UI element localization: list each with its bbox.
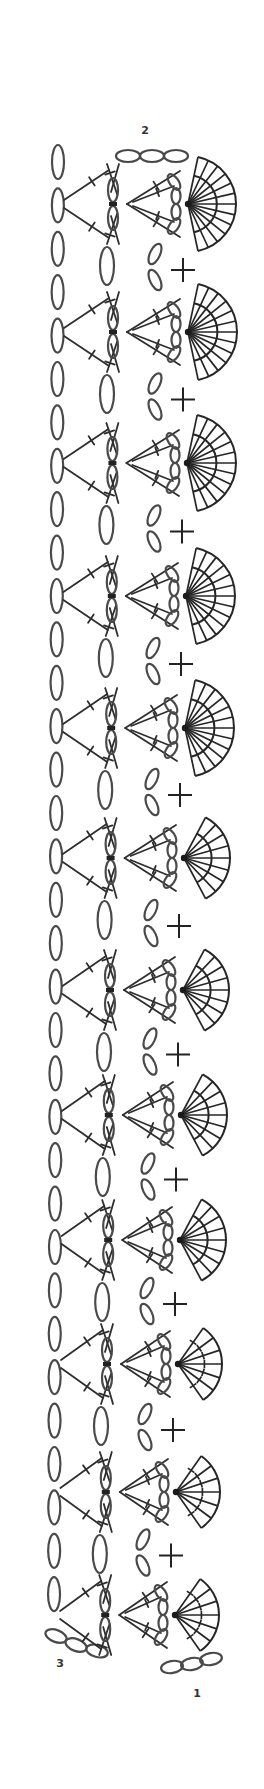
fan-shell <box>185 284 237 380</box>
chain-stitch-icon <box>94 1407 108 1445</box>
crossbar-icon <box>199 1620 202 1628</box>
chain-stitch-icon <box>50 883 62 917</box>
chain-stitch-icon <box>97 1033 111 1071</box>
chain-stitch-icon <box>146 397 164 421</box>
single-crochet-icon <box>171 258 195 282</box>
chain-stitch-icon <box>48 1490 60 1524</box>
chain-stitches <box>44 145 223 1675</box>
crossbar-icon <box>187 1591 194 1596</box>
single-crochet-icon <box>163 1292 187 1316</box>
fan-shell <box>185 157 236 251</box>
single-crochet-icon <box>168 783 192 807</box>
join-icon <box>102 1490 110 1494</box>
row-labels: 231 <box>56 124 201 1700</box>
chain-stitch-icon <box>49 1187 61 1221</box>
fan-hub <box>184 460 190 466</box>
chain-stitch-icon <box>49 1230 61 1264</box>
crossbar-icon <box>88 701 94 709</box>
chain-stitch-icon <box>146 371 164 395</box>
motif-5 <box>63 680 234 817</box>
single-crochet-icon <box>161 1418 185 1442</box>
fan-shell <box>181 817 230 898</box>
tall-stitch-icon <box>176 1466 211 1492</box>
motif-7 <box>63 949 230 1076</box>
fan-shell <box>184 415 236 511</box>
chain-stitch-icon <box>144 662 162 686</box>
crossbar-icon <box>202 1369 205 1377</box>
chain-stitch-icon <box>50 796 62 830</box>
chain-stitch-icon <box>52 275 64 309</box>
join-icon <box>109 330 117 334</box>
motif-9 <box>62 1199 226 1326</box>
chain-stitch-icon <box>96 1158 110 1196</box>
crossbar-icon <box>89 305 95 313</box>
chain-stitch-icon <box>140 150 164 162</box>
motif-10 <box>61 1324 222 1452</box>
join-icon <box>109 202 117 206</box>
crossbar-icon <box>85 1213 91 1221</box>
chain-stitch-icon <box>50 970 62 1004</box>
fan-shell <box>177 1199 226 1280</box>
tall-stitch-icon <box>178 1364 203 1400</box>
chain-stitch-icon <box>52 232 64 266</box>
tall-stitch-icon <box>178 1364 213 1390</box>
chain-stitch-icon <box>100 247 114 285</box>
crossbar-icon <box>190 1383 197 1388</box>
join-icon <box>103 1362 111 1366</box>
chain-stitch-icon <box>51 405 63 439</box>
chain-stitch-icon <box>136 1402 154 1426</box>
single-crochet-icon <box>166 1043 190 1067</box>
fan-shell <box>182 680 234 776</box>
fan-hub <box>181 855 187 861</box>
chain-stitch-icon <box>116 150 140 162</box>
chain-stitch-icon <box>99 639 113 677</box>
chain-stitch-icon <box>93 1535 107 1573</box>
row-label-3: 3 <box>56 1657 64 1670</box>
crochet-chart-svg: 231 <box>0 0 264 1789</box>
chain-stitch-icon <box>139 1151 157 1175</box>
chain-stitch-icon <box>49 1360 61 1394</box>
tall-stitch-icon <box>176 1456 201 1492</box>
tall-stitch-icon <box>175 1589 210 1615</box>
fan-hub <box>172 1612 178 1618</box>
crossbar-icon <box>89 350 95 358</box>
fan-shell <box>172 1579 219 1651</box>
tall-stitch-icon <box>175 1601 217 1615</box>
chain-stitch-icon <box>164 150 188 162</box>
tall-stitch-icon <box>178 1364 220 1378</box>
fan-hub <box>178 1112 184 1118</box>
crossbar-icon <box>199 1603 202 1611</box>
fan-shell <box>183 548 235 644</box>
chain-stitch-icon <box>98 771 112 809</box>
chain-stitch-icon <box>98 901 112 939</box>
join-icon <box>107 856 115 860</box>
single-crochet-icon <box>164 1168 188 1192</box>
motif-2 <box>64 284 237 422</box>
chain-stitch-icon <box>51 492 63 526</box>
single-crochet-icon <box>171 388 195 412</box>
chain-stitch-icon <box>49 1273 61 1307</box>
chain-stitch-icon <box>51 666 63 700</box>
crossbar-icon <box>202 1352 205 1360</box>
chain-stitch-icon <box>48 1577 60 1611</box>
crossbar-icon <box>84 1337 90 1345</box>
tall-stitch-icon <box>175 1615 217 1629</box>
crossbar-icon <box>83 1465 89 1473</box>
chain-stitch-icon <box>100 375 114 413</box>
chain-stitch-icon <box>95 1283 109 1321</box>
chain-stitch-icon <box>49 1100 61 1134</box>
join-icon <box>108 594 116 598</box>
tall-stitch-icon <box>176 1492 218 1506</box>
crossbar-icon <box>89 481 95 489</box>
crossbar-icon <box>188 1511 195 1516</box>
fan-hub <box>173 1489 179 1495</box>
motif-1 <box>64 157 236 292</box>
chain-stitch-icon <box>199 1651 223 1667</box>
chain-stitch-icon <box>49 1404 61 1438</box>
chain-stitch-icon <box>51 579 63 613</box>
chain-stitch-icon <box>52 188 64 222</box>
chain-stitch-icon <box>50 926 62 960</box>
fan-hub <box>177 1237 183 1243</box>
crossbar-icon <box>83 1511 89 1519</box>
chain-stitch-icon <box>144 636 162 660</box>
